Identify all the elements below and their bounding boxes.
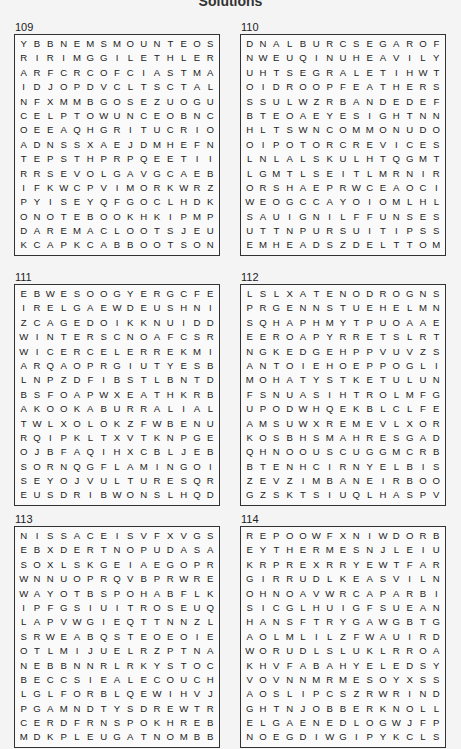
grid-letter: O: [243, 138, 256, 152]
grid-letter: W: [376, 529, 389, 543]
grid-letter: L: [243, 167, 256, 181]
grid-letter: I: [17, 181, 30, 195]
grid-letter: B: [190, 730, 203, 744]
grid-letter: T: [17, 417, 30, 431]
grid-letter: T: [270, 123, 283, 137]
grid-letter: A: [283, 152, 296, 166]
grid-letter: E: [376, 431, 389, 445]
grid-letter: P: [256, 402, 269, 416]
grid-letter: F: [336, 80, 349, 94]
grid-letter: U: [110, 402, 123, 416]
grid-letter: R: [403, 644, 416, 658]
grid-letter: P: [164, 644, 177, 658]
grid-letter: C: [17, 716, 30, 730]
grid-letter: R: [137, 402, 150, 416]
grid-letter: F: [70, 716, 83, 730]
grid-letter: E: [177, 359, 190, 373]
grid-letter: Q: [124, 687, 137, 701]
grid-letter: S: [57, 195, 70, 209]
grid-letter: N: [243, 345, 256, 359]
grid-letter: Z: [17, 316, 30, 330]
grid-letter: E: [296, 716, 309, 730]
grid-letter: O: [177, 95, 190, 109]
grid-letter: H: [390, 109, 403, 123]
grid-letter: O: [243, 587, 256, 601]
grid-letter: E: [70, 316, 83, 330]
grid-letter: E: [177, 601, 190, 615]
grid-letter: L: [110, 659, 123, 673]
grid-letter: H: [336, 388, 349, 402]
grid-letter: E: [270, 51, 283, 65]
grid-letter: O: [283, 138, 296, 152]
grid-letter: P: [296, 316, 309, 330]
grid-letter: H: [270, 373, 283, 387]
grid-letter: L: [164, 195, 177, 209]
grid-letter: C: [190, 673, 203, 687]
grid-letter: P: [204, 210, 217, 224]
grid-letter: X: [44, 95, 57, 109]
grid-letter: E: [283, 238, 296, 252]
grid-letter: H: [256, 445, 269, 459]
grid-letter: Y: [336, 195, 349, 209]
grid-letter: J: [376, 543, 389, 557]
grid-letter: O: [270, 402, 283, 416]
grid-letter: I: [256, 572, 269, 586]
grid-letter: F: [403, 558, 416, 572]
grid-letter: U: [350, 224, 363, 238]
grid-letter: C: [70, 181, 83, 195]
grid-letter: C: [30, 316, 43, 330]
grid-letter: O: [137, 238, 150, 252]
grid-letter: S: [350, 543, 363, 557]
grid-letter: B: [336, 95, 349, 109]
grid-letter: P: [430, 716, 443, 730]
grid-letter: T: [177, 66, 190, 80]
grid-letter: X: [310, 417, 323, 431]
grid-letter: I: [350, 730, 363, 744]
grid-letter: S: [363, 673, 376, 687]
grid-letter: F: [110, 66, 123, 80]
grid-letter: S: [270, 417, 283, 431]
grid-letter: U: [323, 601, 336, 615]
grid-letter: Y: [323, 330, 336, 344]
grid-letter: R: [70, 488, 83, 502]
grid-letter: E: [323, 287, 336, 301]
grid-letter: E: [256, 529, 269, 543]
grid-letter: A: [70, 388, 83, 402]
grid-letter: S: [430, 210, 443, 224]
grid-letter: M: [124, 181, 137, 195]
grid-letter: H: [270, 238, 283, 252]
grid-letter: G: [430, 388, 443, 402]
grid-letter: Y: [44, 474, 57, 488]
grid-letter: R: [97, 572, 110, 586]
grid-letter: R: [84, 716, 97, 730]
grid-letter: R: [323, 37, 336, 51]
grid-letter: U: [350, 301, 363, 315]
grid-letter: E: [124, 388, 137, 402]
grid-letter: L: [416, 702, 429, 716]
grid-letter: A: [84, 301, 97, 315]
grid-letter: E: [57, 345, 70, 359]
grid-letter: O: [310, 702, 323, 716]
grid-letter: O: [137, 330, 150, 344]
grid-letter: A: [44, 238, 57, 252]
grid-letter: V: [403, 345, 416, 359]
grid-letter: T: [177, 644, 190, 658]
grid-letter: P: [30, 601, 43, 615]
grid-letter: O: [150, 630, 163, 644]
grid-letter: W: [110, 488, 123, 502]
grid-letter: D: [390, 529, 403, 543]
grid-letter: M: [137, 460, 150, 474]
grid-letter: G: [310, 345, 323, 359]
grid-letter: D: [363, 287, 376, 301]
grid-letter: B: [430, 529, 443, 543]
grid-letter: A: [150, 402, 163, 416]
grid-letter: T: [403, 109, 416, 123]
grid-letter: D: [84, 702, 97, 716]
grid-letter: Y: [350, 659, 363, 673]
grid-letter: G: [177, 460, 190, 474]
grid-letter: E: [150, 109, 163, 123]
grid-letter: S: [323, 373, 336, 387]
grid-letter: U: [97, 474, 110, 488]
grid-letter: N: [390, 702, 403, 716]
grid-letter: T: [164, 37, 177, 51]
